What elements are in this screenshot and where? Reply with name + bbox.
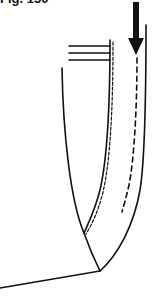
inner-dashed-curve: [86, 42, 113, 234]
inner-solid-curve: [84, 40, 110, 233]
left-outer-curve: [62, 68, 100, 271]
baseline: [0, 271, 100, 288]
curve-diagram: [0, 0, 152, 299]
right-dashed-curve: [122, 58, 137, 212]
down-arrow-icon: [128, 2, 144, 55]
